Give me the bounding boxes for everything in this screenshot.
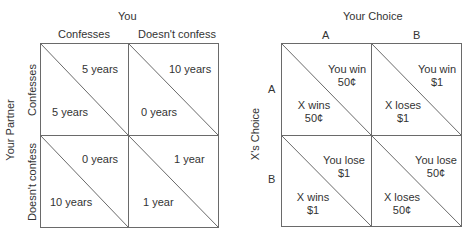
payoff-you-r1c2: 10 years	[169, 63, 211, 75]
payoff-you-r2c1: You lose $1	[318, 154, 370, 180]
row-player-label: Your Partner	[4, 90, 16, 170]
payoff-you-r2c2: You lose 50¢	[408, 154, 464, 180]
column-header-confesses: Confesses	[58, 28, 110, 40]
row-header-confesses: Confesses	[26, 50, 38, 130]
row-player-label: X's Choice	[249, 99, 261, 169]
payoff-you-r2c1: 0 years	[82, 153, 118, 165]
payoff-partner-r1c2: 0 years	[141, 106, 177, 118]
column-player-label: You	[118, 10, 137, 22]
payoff-partner-r2c2: 1 year	[143, 196, 174, 208]
column-player-label: Your Choice	[343, 10, 403, 22]
payoff-you-r1c2: You win $1	[412, 63, 462, 89]
payoff-partner-r2c1: 10 years	[50, 196, 92, 208]
payoff-x-r2c1: X wins $1	[291, 191, 335, 217]
payoff-x-r1c2: X loses $1	[380, 99, 426, 125]
column-header-doesnt-confess: Doesn't confess	[138, 28, 216, 40]
column-header-a: A	[322, 29, 329, 41]
payoff-you-r1c1: 5 years	[82, 63, 118, 75]
payoff-x-r1c1: X wins 50¢	[292, 99, 336, 125]
row-header-b: B	[268, 173, 275, 185]
row-header-a: A	[268, 83, 275, 95]
row-header-doesnt-confess: Doesn't confess	[26, 132, 38, 232]
payoff-you-r1c1: You win 50¢	[322, 63, 372, 89]
payoff-x-r2c2: X loses 50¢	[379, 191, 425, 217]
payoff-you-r2c2: 1 year	[174, 153, 205, 165]
payoff-partner-r1c1: 5 years	[52, 106, 88, 118]
column-header-b: B	[413, 29, 420, 41]
